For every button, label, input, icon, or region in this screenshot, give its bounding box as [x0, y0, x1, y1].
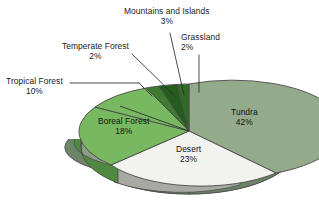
slice-label-tundra-value: 42% [231, 117, 258, 127]
callout-grassland-value: 2% [181, 42, 220, 52]
slice-label-boreal-forest: Boreal Forest 18% [98, 116, 149, 137]
slice-label-desert-name: Desert [176, 144, 201, 154]
callout-grassland-label: Grassland [181, 32, 220, 42]
callout-mountains-value: 3% [124, 16, 210, 26]
callout-tropical-value: 10% [6, 86, 63, 96]
slice-label-boreal-value: 18% [98, 126, 149, 136]
callout-mountains-label: Mountains and Islands [124, 6, 210, 16]
callout-tropical-label: Tropical Forest [6, 76, 63, 86]
slice-label-desert: Desert 23% [176, 144, 201, 165]
callout-temperate-label: Temperate Forest [62, 41, 129, 51]
slice-label-tundra: Tundra 42% [231, 107, 258, 128]
callout-temperate-value: 2% [62, 51, 129, 61]
slice-label-tundra-name: Tundra [231, 107, 258, 117]
callout-tropical-forest: Tropical Forest 10% [6, 76, 63, 97]
pie-chart-canvas [0, 0, 319, 219]
pie-chart-figure: Mountains and Islands 3% Grassland 2% Te… [0, 0, 319, 219]
callout-grassland: Grassland 2% [181, 32, 220, 53]
slice-label-boreal-name: Boreal Forest [98, 116, 149, 126]
callout-temperate-forest: Temperate Forest 2% [62, 41, 129, 62]
slice-label-desert-value: 23% [176, 154, 201, 164]
callout-mountains-and-islands: Mountains and Islands 3% [124, 6, 210, 27]
